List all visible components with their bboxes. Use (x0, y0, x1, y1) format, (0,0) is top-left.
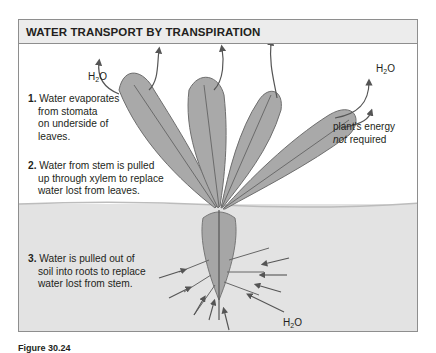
diagram-frame: WATER TRANSPORT BY TRANSPIRATION H2O H2O… (18, 19, 418, 332)
water-label-right: H2O (376, 63, 395, 75)
figure-caption: Figure 30.24 (18, 343, 71, 353)
figure-title: WATER TRANSPORT BY TRANSPIRATION (26, 26, 260, 38)
step-1: 1. Water evaporates from stomata on unde… (28, 93, 119, 143)
step-2: 2. Water from stem is pulled up through … (28, 160, 164, 198)
figure-header: WATER TRANSPORT BY TRANSPIRATION (19, 20, 417, 44)
energy-note: plant's energy not required (333, 121, 395, 146)
water-label-soil: H2O (283, 317, 302, 329)
water-label-left: H2O (88, 71, 107, 83)
step-3: 3. Water is pulled out of soil into root… (28, 253, 146, 291)
